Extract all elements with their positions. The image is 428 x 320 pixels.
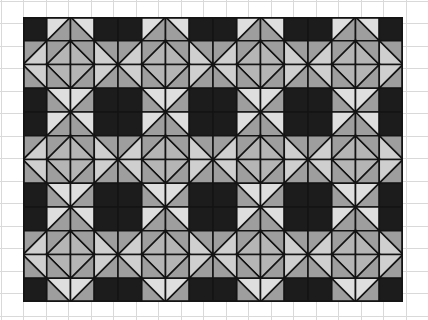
quilt-unit-solid xyxy=(118,17,142,41)
quilt-unit-solid xyxy=(379,112,403,136)
quilt-unit-solid xyxy=(284,207,308,231)
quilt-unit-solid xyxy=(284,17,308,41)
quilt-unit-solid xyxy=(308,88,332,112)
quilt-unit-solid xyxy=(94,278,118,302)
quilt-unit-solid xyxy=(213,278,237,302)
quilt-unit-solid xyxy=(213,207,237,231)
quilt-illustration xyxy=(0,0,428,320)
quilt-unit-solid xyxy=(118,112,142,136)
quilt-unit-solid xyxy=(189,88,213,112)
quilt-unit-solid xyxy=(213,112,237,136)
quilt-unit-solid xyxy=(284,112,308,136)
graph-gridline-vertical xyxy=(1,0,2,320)
quilt-unit-solid xyxy=(189,278,213,302)
quilt-unit-solid xyxy=(284,88,308,112)
quilt-unit-solid xyxy=(94,207,118,231)
quilt-unit-solid xyxy=(23,112,47,136)
quilt-unit-solid xyxy=(379,17,403,41)
quilt-unit-solid xyxy=(118,88,142,112)
quilt-unit-solid xyxy=(189,183,213,207)
quilt-unit-solid xyxy=(189,17,213,41)
quilt-unit-solid xyxy=(284,278,308,302)
quilt-unit-solid xyxy=(308,207,332,231)
quilt-unit-solid xyxy=(23,88,47,112)
quilt-svg xyxy=(23,17,403,302)
quilt-unit-solid xyxy=(308,17,332,41)
quilt-unit-solid xyxy=(213,183,237,207)
quilt-unit-solid xyxy=(308,112,332,136)
quilt-unit-solid xyxy=(23,183,47,207)
quilt-unit-solid xyxy=(379,88,403,112)
graph-gridline-vertical xyxy=(406,0,407,320)
quilt-unit-solid xyxy=(118,207,142,231)
quilt-unit-solid xyxy=(284,183,308,207)
quilt-unit-solid xyxy=(213,17,237,41)
graph-gridline-horizontal xyxy=(0,316,428,317)
quilt-unit-solid xyxy=(94,112,118,136)
quilt-unit-solid xyxy=(118,183,142,207)
quilt-unit-solid xyxy=(379,278,403,302)
quilt-unit-solid xyxy=(308,278,332,302)
quilt-unit-solid xyxy=(23,278,47,302)
quilt-unit-solid xyxy=(213,88,237,112)
quilt-unit-solid xyxy=(94,88,118,112)
quilt-unit-solid xyxy=(118,278,142,302)
quilt-pattern xyxy=(23,17,403,302)
quilt-unit-solid xyxy=(379,183,403,207)
quilt-unit-solid xyxy=(379,207,403,231)
quilt-unit-solid xyxy=(94,183,118,207)
quilt-unit-solid xyxy=(94,17,118,41)
quilt-unit-solid xyxy=(189,112,213,136)
quilt-unit-solid xyxy=(189,207,213,231)
quilt-unit-solid xyxy=(23,207,47,231)
quilt-unit-solid xyxy=(308,183,332,207)
graph-gridline-horizontal xyxy=(0,1,428,2)
quilt-unit-solid xyxy=(23,17,47,41)
